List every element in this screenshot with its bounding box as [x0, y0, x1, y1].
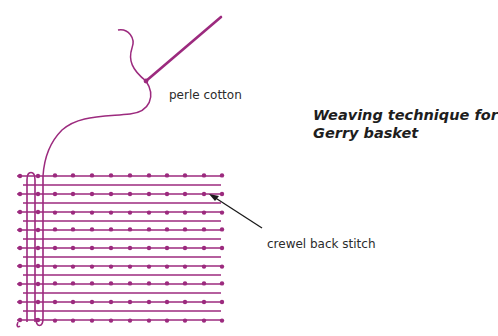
title-line-2: Gerry basket — [313, 124, 498, 142]
back-stitch-dot — [90, 281, 94, 285]
back-stitch-dot — [36, 174, 40, 178]
back-stitch-dot — [36, 192, 40, 196]
back-stitch-dot — [109, 173, 113, 177]
back-stitch-dot — [36, 228, 40, 232]
back-stitch-dot — [18, 300, 22, 304]
back-stitch-dot — [109, 300, 113, 304]
title-line-1: Weaving technique for — [313, 106, 498, 124]
back-stitch-dot — [53, 318, 57, 322]
back-stitch-dot — [202, 318, 206, 322]
back-stitch-dot — [183, 281, 187, 285]
back-stitch-dot — [71, 264, 75, 268]
back-stitch-dot — [128, 173, 132, 177]
back-stitch-dot — [165, 300, 169, 304]
back-stitch-dot — [202, 281, 206, 285]
thread-perle-cotton — [43, 81, 151, 176]
back-stitch-dot — [128, 210, 132, 214]
back-stitch-dot — [109, 246, 113, 250]
back-stitch-dot — [183, 173, 187, 177]
back-stitch-dot — [220, 281, 224, 285]
back-stitch-dot — [53, 300, 57, 304]
back-stitch-dot — [71, 318, 75, 322]
back-stitch-dot — [183, 264, 187, 268]
back-stitch-dot — [147, 192, 151, 196]
arrow-icon — [209, 194, 262, 228]
back-stitch-dot — [128, 246, 132, 250]
back-stitch-dot — [71, 192, 75, 196]
back-stitch-dot — [202, 192, 206, 196]
woven-grid — [17, 173, 224, 323]
back-stitch-dot — [183, 227, 187, 231]
back-stitch-dot — [36, 282, 40, 286]
back-stitch-dot — [90, 227, 94, 231]
back-stitch-dot — [128, 300, 132, 304]
back-stitch-dot — [18, 210, 22, 214]
back-stitch-dot — [90, 210, 94, 214]
back-stitch-dot — [128, 264, 132, 268]
back-stitch-dot — [53, 246, 57, 250]
back-stitch-dot — [183, 300, 187, 304]
back-stitch-dot — [18, 282, 22, 286]
diagram-title: Weaving technique for Gerry basket — [313, 106, 498, 142]
back-stitch-dot — [183, 318, 187, 322]
back-stitch-dot — [202, 246, 206, 250]
back-stitch-dot — [220, 246, 224, 250]
back-stitch-dot — [36, 246, 40, 250]
back-stitch-dot — [165, 192, 169, 196]
back-stitch-dot — [90, 246, 94, 250]
back-stitch-dot — [165, 281, 169, 285]
thread-tail — [118, 30, 146, 81]
back-stitch-dot — [71, 300, 75, 304]
back-stitch-dot — [128, 318, 132, 322]
back-stitch-dot — [147, 227, 151, 231]
back-stitch-dot — [53, 227, 57, 231]
back-stitch-dot — [18, 246, 22, 250]
back-stitch-dot — [90, 318, 94, 322]
back-stitch-dot — [18, 264, 22, 268]
back-stitch-dot — [220, 173, 224, 177]
back-stitch-dot — [53, 264, 57, 268]
back-stitch-dot — [183, 192, 187, 196]
back-stitch-dot — [109, 281, 113, 285]
back-stitch-dot — [165, 210, 169, 214]
back-stitch-dot — [71, 281, 75, 285]
back-stitch-dot — [90, 300, 94, 304]
back-stitch-dot — [202, 264, 206, 268]
back-stitch-dot — [53, 210, 57, 214]
back-stitch-dot — [202, 227, 206, 231]
back-stitch-dot — [53, 173, 57, 177]
back-stitch-dot — [109, 318, 113, 322]
back-stitch-dot — [147, 246, 151, 250]
back-stitch-dot — [128, 227, 132, 231]
back-stitch-dot — [183, 210, 187, 214]
back-stitch-dot — [53, 192, 57, 196]
back-stitch-dot — [165, 173, 169, 177]
back-stitch-dot — [109, 210, 113, 214]
back-stitch-dot — [220, 192, 224, 196]
back-stitch-dot — [53, 281, 57, 285]
back-stitch-dot — [71, 210, 75, 214]
back-stitch-dot — [165, 227, 169, 231]
back-stitch-dot — [202, 210, 206, 214]
back-stitch-dot — [147, 300, 151, 304]
back-stitch-dot — [165, 264, 169, 268]
back-stitch-dot — [18, 192, 22, 196]
back-stitch-dot — [109, 227, 113, 231]
back-stitch-dot — [202, 300, 206, 304]
needle-icon — [144, 17, 221, 83]
back-stitch-dot — [36, 210, 40, 214]
back-stitch-dot — [220, 264, 224, 268]
back-stitch-dot — [220, 210, 224, 214]
back-stitch-dot — [165, 318, 169, 322]
back-stitch-dot — [18, 174, 22, 178]
back-stitch-dot — [147, 173, 151, 177]
back-stitch-dot — [220, 227, 224, 231]
crewel-back-stitch-label: crewel back stitch — [267, 237, 376, 251]
back-stitch-dot — [71, 227, 75, 231]
back-stitch-dot — [71, 173, 75, 177]
back-stitch-dot — [147, 281, 151, 285]
back-stitch-dot — [36, 264, 40, 268]
back-stitch-dot — [220, 300, 224, 304]
back-stitch-dot — [90, 173, 94, 177]
